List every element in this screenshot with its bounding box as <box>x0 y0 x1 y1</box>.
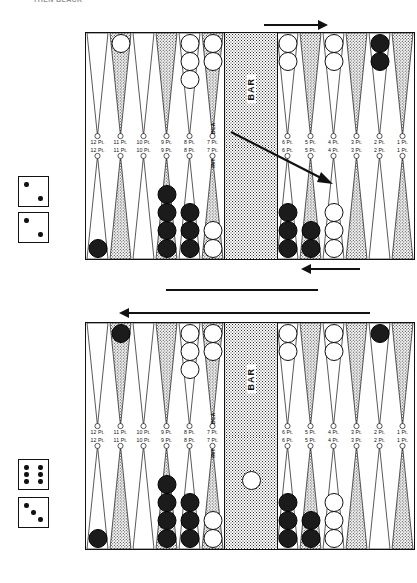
point-7[interactable]: 7 Pt.INT <box>201 436 224 549</box>
checker-stack[interactable] <box>180 325 199 379</box>
point-5[interactable]: 5 Pt. <box>299 146 322 259</box>
point-3[interactable]: 3 Pt. <box>345 33 368 146</box>
white-checker[interactable] <box>180 52 199 71</box>
white-checker[interactable] <box>180 324 199 343</box>
point-11[interactable]: 11 Pt. <box>109 436 132 549</box>
white-checker[interactable] <box>203 239 222 258</box>
black-checker[interactable] <box>88 529 107 548</box>
black-checker[interactable] <box>111 324 130 343</box>
point-1[interactable]: 1 Pt. <box>391 323 414 436</box>
white-checker[interactable] <box>111 34 130 53</box>
white-checker[interactable] <box>278 34 297 53</box>
black-checker[interactable] <box>370 324 389 343</box>
black-checker[interactable] <box>180 203 199 222</box>
black-checker[interactable] <box>88 239 107 258</box>
checker-stack[interactable] <box>88 530 107 548</box>
point-4[interactable]: 4 Pt. <box>322 33 345 146</box>
black-checker[interactable] <box>157 511 176 530</box>
white-checker[interactable] <box>203 324 222 343</box>
point-2[interactable]: 2 Pt. <box>368 33 391 146</box>
point-9[interactable]: 9 Pt. <box>155 436 178 549</box>
white-checker[interactable] <box>324 239 343 258</box>
white-checker[interactable] <box>180 360 199 379</box>
black-checker[interactable] <box>301 529 320 548</box>
checker-stack[interactable] <box>180 494 199 548</box>
checker-stack[interactable] <box>324 35 343 71</box>
point-4[interactable]: 4 Pt. <box>322 323 345 436</box>
point-3[interactable]: 3 Pt. <box>345 146 368 259</box>
black-checker[interactable] <box>370 52 389 71</box>
checker-stack[interactable] <box>370 325 389 343</box>
checker-stack[interactable] <box>324 494 343 548</box>
point-2[interactable]: 2 Pt. <box>368 146 391 259</box>
white-checker[interactable] <box>324 324 343 343</box>
white-checker[interactable] <box>278 342 297 361</box>
black-checker[interactable] <box>180 239 199 258</box>
point-8[interactable]: 8 Pt. <box>178 146 201 259</box>
point-6[interactable]: 6 Pt. <box>276 146 299 259</box>
black-checker[interactable] <box>157 203 176 222</box>
white-checker[interactable] <box>203 342 222 361</box>
point-3[interactable]: 3 Pt. <box>345 436 368 549</box>
point-8[interactable]: 8 Pt. <box>178 323 201 436</box>
point-7[interactable]: 7 Pt.INT <box>201 146 224 259</box>
white-checker[interactable] <box>324 511 343 530</box>
black-checker[interactable] <box>180 529 199 548</box>
point-8[interactable]: 8 Pt. <box>178 436 201 549</box>
point-1[interactable]: 1 Pt. <box>391 33 414 146</box>
black-checker[interactable] <box>157 493 176 512</box>
point-12[interactable]: 12 Pt. <box>86 436 109 549</box>
black-checker[interactable] <box>301 221 320 240</box>
white-checker[interactable] <box>203 221 222 240</box>
point-10[interactable]: 10 Pt. <box>132 33 155 146</box>
checker-stack[interactable] <box>111 325 130 343</box>
black-checker[interactable] <box>278 239 297 258</box>
point-5[interactable]: 5 Pt. <box>299 436 322 549</box>
point-12[interactable]: 12 Pt. <box>86 146 109 259</box>
white-checker[interactable] <box>324 221 343 240</box>
point-3[interactable]: 3 Pt. <box>345 323 368 436</box>
black-checker[interactable] <box>301 239 320 258</box>
black-checker[interactable] <box>157 239 176 258</box>
checker-stack[interactable] <box>111 35 130 53</box>
point-12[interactable]: 12 Pt. <box>86 33 109 146</box>
point-2[interactable]: 2 Pt. <box>368 436 391 549</box>
point-9[interactable]: 9 Pt. <box>155 146 178 259</box>
white-checker[interactable] <box>180 34 199 53</box>
black-checker[interactable] <box>278 203 297 222</box>
point-2[interactable]: 2 Pt. <box>368 323 391 436</box>
white-checker[interactable] <box>203 511 222 530</box>
checker-stack[interactable] <box>203 222 222 258</box>
point-10[interactable]: 10 Pt. <box>132 436 155 549</box>
point-12[interactable]: 12 Pt. <box>86 323 109 436</box>
black-checker[interactable] <box>278 529 297 548</box>
point-1[interactable]: 1 Pt. <box>391 436 414 549</box>
white-checker[interactable] <box>324 203 343 222</box>
point-10[interactable]: 10 Pt. <box>132 146 155 259</box>
checker-stack[interactable] <box>278 494 297 548</box>
checker-stack[interactable] <box>203 35 222 71</box>
white-checker-on-bar[interactable] <box>242 471 261 490</box>
checker-stack[interactable] <box>301 222 320 258</box>
white-checker[interactable] <box>278 324 297 343</box>
point-4[interactable]: 4 Pt. <box>322 436 345 549</box>
checker-stack[interactable] <box>203 512 222 548</box>
point-4[interactable]: 4 Pt. <box>322 146 345 259</box>
checker-stack[interactable] <box>203 325 222 361</box>
checker-stack[interactable] <box>301 512 320 548</box>
checker-stack[interactable] <box>88 240 107 258</box>
black-checker[interactable] <box>278 221 297 240</box>
white-checker[interactable] <box>180 342 199 361</box>
white-checker[interactable] <box>203 52 222 71</box>
black-checker[interactable] <box>157 185 176 204</box>
checker-stack[interactable] <box>278 325 297 361</box>
white-checker[interactable] <box>324 529 343 548</box>
point-5[interactable]: 5 Pt. <box>299 323 322 436</box>
checker-stack[interactable] <box>324 204 343 258</box>
white-checker[interactable] <box>278 52 297 71</box>
white-checker[interactable] <box>324 493 343 512</box>
black-checker[interactable] <box>180 221 199 240</box>
point-6[interactable]: 6 Pt. <box>276 436 299 549</box>
point-6[interactable]: 6 Pt. <box>276 323 299 436</box>
point-5[interactable]: 5 Pt. <box>299 33 322 146</box>
